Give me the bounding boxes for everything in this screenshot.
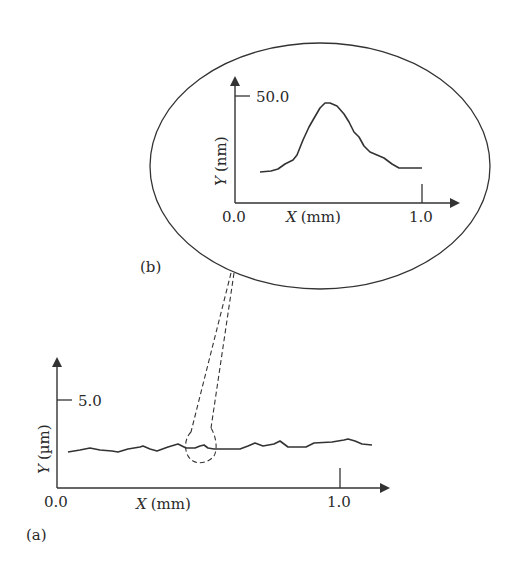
magnifier-ellipse — [150, 43, 490, 289]
connector-right — [211, 273, 234, 428]
panel-b-x-unit: (mm) — [301, 208, 341, 226]
panel-b-x-tick-label: 1.0 — [409, 208, 433, 226]
panel-a-y-unit: (µm) — [35, 424, 53, 460]
connector-left — [191, 273, 231, 432]
panel-a-x-tick-label: 1.0 — [327, 493, 351, 511]
panel-a: 5.0 0.0 1.0 X(mm) Y(µm) — [35, 359, 388, 513]
panel-a-x-origin-label: 0.0 — [44, 493, 68, 511]
panel-a-y-var: Y — [35, 462, 53, 474]
panel-b-y-var: Y — [212, 174, 230, 186]
panel-b: 50.0 0.0 1.0 X(mm) Y(nm) — [150, 43, 490, 289]
panel-a-x-axis-label: X(mm) — [135, 495, 191, 513]
panel-b-y-tick-label: 50.0 — [256, 88, 289, 106]
panel-b-x-var: X — [285, 208, 298, 226]
panel-b-x-axis-label: X(mm) — [285, 208, 341, 226]
panel-a-x-var: X — [135, 495, 148, 513]
panel-a-x-unit: (mm) — [151, 495, 191, 513]
panel-b-y-axis-label: Y(nm) — [212, 137, 230, 187]
panel-a-label: (a) — [26, 526, 47, 544]
panel-b-y-unit: (nm) — [212, 137, 230, 173]
panel-b-x-origin-label: 0.0 — [222, 208, 246, 226]
panel-b-label: (b) — [140, 258, 161, 276]
panel-b-profile-line — [260, 103, 422, 172]
panel-a-profile-line — [68, 439, 372, 452]
panel-a-y-axis-label: Y(µm) — [35, 424, 53, 474]
figure-canvas: 50.0 0.0 1.0 X(mm) Y(nm) (b) 5.0 0.0 1.0… — [0, 0, 518, 572]
panel-a-y-tick-label: 5.0 — [78, 392, 102, 410]
zoom-connector — [186, 273, 234, 463]
